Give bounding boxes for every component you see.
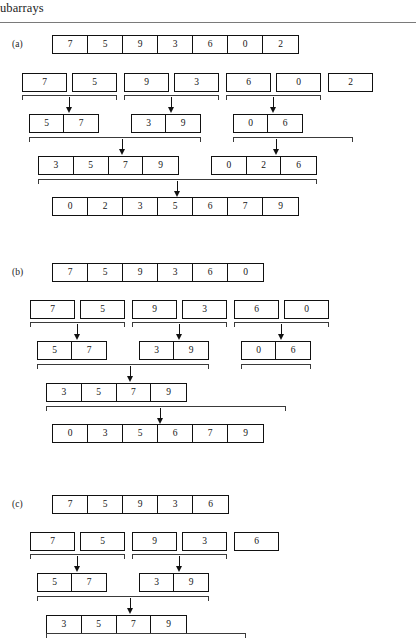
cell: 6: [235, 301, 278, 318]
array-b-split-5: 0: [284, 300, 329, 319]
array-c-split-3: 3: [182, 532, 227, 551]
cell: 5: [88, 264, 123, 281]
cell: 6: [227, 74, 270, 91]
cell: 9: [123, 36, 158, 53]
cell: 5: [38, 342, 72, 359]
cell: 0: [285, 301, 328, 318]
cell: 0: [234, 115, 268, 132]
cell: 9: [125, 74, 168, 91]
array-a-split-2: 9: [124, 73, 169, 92]
array-a-split-0: 7: [22, 73, 67, 92]
cell: 7: [64, 115, 98, 132]
merge-arrow: [179, 324, 180, 335]
panel-label-b: (b): [12, 267, 23, 277]
cell: 5: [82, 384, 117, 401]
cell: 3: [183, 533, 226, 550]
cell: 5: [74, 157, 109, 174]
cell: 3: [140, 342, 174, 359]
array-b-split-0: 7: [30, 300, 75, 319]
cell: 6: [193, 496, 228, 513]
array-c-pair-1: 3 9: [139, 573, 209, 592]
cell: 0: [53, 198, 88, 215]
array-b-pair-1: 3 9: [139, 341, 209, 360]
cell: 3: [175, 74, 218, 91]
merge-arrow: [77, 556, 78, 567]
header-rule: [0, 22, 416, 23]
cell: 0: [228, 264, 263, 281]
cell: 0: [242, 342, 276, 359]
cell: 6: [158, 425, 193, 442]
merge-arrow: [177, 181, 178, 192]
cell: 9: [133, 301, 176, 318]
array-a-input: 7 5 9 3 6 0 2: [52, 35, 299, 54]
cell: 2: [329, 74, 372, 91]
merge-arrow: [171, 97, 172, 108]
cell: 2: [263, 36, 298, 53]
cell: 0: [212, 157, 247, 174]
array-a-split-6: 2: [328, 73, 373, 92]
cell: 5: [123, 425, 158, 442]
array-c-pair-0: 5 7: [37, 573, 107, 592]
array-b-input: 7 5 9 3 6 0: [52, 263, 264, 282]
array-b-sorted: 0 3 5 6 7 9: [52, 424, 264, 443]
cell: 9: [151, 384, 186, 401]
array-c-input: 7 5 9 3 6: [52, 495, 229, 514]
cell: 9: [143, 157, 178, 174]
array-b-split-4: 6: [234, 300, 279, 319]
panel-label-c: (c): [12, 499, 23, 509]
cell: 3: [39, 157, 74, 174]
merge-arrow: [276, 139, 277, 150]
cell: 5: [158, 198, 193, 215]
cell: 3: [140, 574, 174, 591]
cell: 5: [73, 74, 116, 91]
cell: 3: [88, 425, 123, 442]
cell: 6: [268, 115, 302, 132]
cell: 9: [151, 616, 186, 633]
array-a-quad-0: 3 5 7 9: [38, 156, 179, 175]
merge-bracket: [37, 596, 209, 601]
cell: 7: [117, 384, 152, 401]
merge-arrow: [69, 97, 70, 108]
merge-arrow: [130, 366, 131, 377]
array-a-pair-2: 0 6: [233, 114, 303, 133]
array-c-split-0: 7: [30, 532, 75, 551]
cell: 6: [193, 264, 228, 281]
merge-bracket: [29, 137, 201, 142]
panel-label-a: (a): [12, 39, 23, 49]
array-b-split-3: 3: [182, 300, 227, 319]
cell: 7: [117, 616, 152, 633]
cell: 9: [263, 198, 298, 215]
array-a-split-5: 0: [276, 73, 321, 92]
cell: 7: [109, 157, 144, 174]
cell: 6: [193, 36, 228, 53]
cell: 5: [82, 616, 117, 633]
cell: 5: [81, 301, 124, 318]
array-c-quad-0: 3 5 7 9: [46, 615, 187, 634]
merge-arrow: [130, 598, 131, 609]
figure-page: ubarrays (a) 7 5 9 3 6 0 2 7 5 9 3 6 0 2…: [0, 0, 416, 638]
cell: 0: [277, 74, 320, 91]
merge-arrow: [77, 324, 78, 335]
cell: 3: [47, 616, 82, 633]
array-c-split-1: 5: [80, 532, 125, 551]
merge-bracket: [37, 364, 209, 369]
cell: 3: [183, 301, 226, 318]
cell: 3: [47, 384, 82, 401]
cell: 9: [133, 533, 176, 550]
cell: 9: [174, 574, 208, 591]
cell: 9: [228, 425, 263, 442]
array-a-split-3: 3: [174, 73, 219, 92]
array-a-pair-1: 3 9: [131, 114, 201, 133]
array-b-pair-2: 0 6: [241, 341, 311, 360]
array-b-quad-0: 3 5 7 9: [46, 383, 187, 402]
merge-arrow: [160, 408, 161, 419]
cell: 2: [247, 157, 282, 174]
array-b-split-1: 5: [80, 300, 125, 319]
cell: 3: [123, 198, 158, 215]
cell: 2: [88, 198, 123, 215]
cell: 6: [193, 198, 228, 215]
array-c-split-2: 9: [132, 532, 177, 551]
merge-arrow: [273, 97, 274, 108]
cell: 3: [132, 115, 166, 132]
running-header: ubarrays: [0, 1, 44, 16]
